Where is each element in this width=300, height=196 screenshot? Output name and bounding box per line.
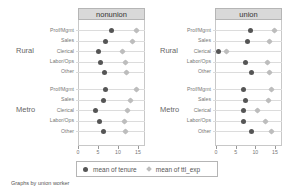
tenure-marker: [249, 129, 254, 134]
category-label: Prof/Mgmt: [34, 27, 74, 33]
category-label: Prof/Mgmt: [34, 86, 74, 92]
gridline: [76, 100, 145, 101]
category-label: Clerical: [34, 48, 74, 54]
tenure-marker: [243, 60, 248, 65]
tenure-marker: [98, 60, 103, 65]
category-label: Labor/Ops: [34, 117, 74, 123]
tenure-marker: [241, 87, 246, 92]
gridline: [76, 62, 145, 63]
tenure-marker: [101, 98, 106, 103]
tenure-marker: [216, 49, 221, 54]
tenure-marker: [245, 39, 250, 44]
legend-label-ttl-exp: mean of ttl_exp: [156, 166, 200, 173]
gridline: [76, 121, 145, 122]
graph-note: Graphs by union worker: [11, 180, 69, 186]
category-label: Sales: [34, 96, 74, 102]
group-label-metro: Metro: [16, 105, 35, 114]
x-axis-tick-label: 0: [209, 149, 223, 155]
x-axis-tick-label: 0: [71, 149, 85, 155]
category-label: Labor/Ops: [171, 117, 211, 123]
tenure-marker: [97, 119, 102, 124]
category-label: Other: [171, 68, 211, 74]
category-label: Other: [171, 128, 211, 134]
category-label: Clerical: [171, 107, 211, 113]
category-label: Labor/Ops: [34, 58, 74, 64]
x-axis-tick-label: 15: [268, 149, 282, 155]
tenure-marker: [102, 70, 107, 75]
gridline: [213, 110, 282, 111]
tenure-marker: [103, 39, 108, 44]
legend-item-ttl-exp: mean of ttl_exp: [147, 166, 200, 173]
gridline: [76, 51, 145, 52]
tenure-marker: [96, 49, 101, 54]
x-axis-tick-label: 10: [248, 149, 262, 155]
category-label: Sales: [171, 96, 211, 102]
panel-header-union: union: [215, 8, 282, 20]
category-label: Other: [34, 128, 74, 134]
x-axis-tick-label: 15: [131, 149, 145, 155]
legend: mean of tenuremean of ttl_exp: [76, 161, 218, 177]
gridline: [76, 110, 145, 111]
category-label: Clerical: [171, 48, 211, 54]
legend-label-tenure: mean of tenure: [93, 166, 137, 173]
legend-item-tenure: mean of tenure: [83, 166, 137, 173]
x-axis-tick-label: 5: [229, 149, 243, 155]
x-axis-tick-label: 10: [111, 149, 125, 155]
tenure-marker: [249, 70, 254, 75]
category-label: Labor/Ops: [171, 58, 211, 64]
gridline: [76, 72, 145, 73]
category-label: Sales: [34, 37, 74, 43]
category-label: Sales: [171, 37, 211, 43]
gridline: [213, 121, 282, 122]
tenure-marker: [241, 119, 246, 124]
diamond-marker-icon: [146, 166, 152, 172]
tenure-marker: [101, 129, 106, 134]
panel-plot-area-nonunion: [78, 20, 145, 146]
category-label: Clerical: [34, 107, 74, 113]
circle-marker-icon: [83, 167, 88, 172]
group-label-rural: Rural: [16, 46, 34, 55]
x-axis-tick-label: 5: [91, 149, 105, 155]
category-label: Other: [34, 68, 74, 74]
tenure-marker: [243, 98, 248, 103]
category-label: Prof/Mgmt: [171, 86, 211, 92]
panel-header-nonunion: nonunion: [78, 8, 145, 20]
category-label: Prof/Mgmt: [171, 27, 211, 33]
gridline: [76, 131, 145, 132]
